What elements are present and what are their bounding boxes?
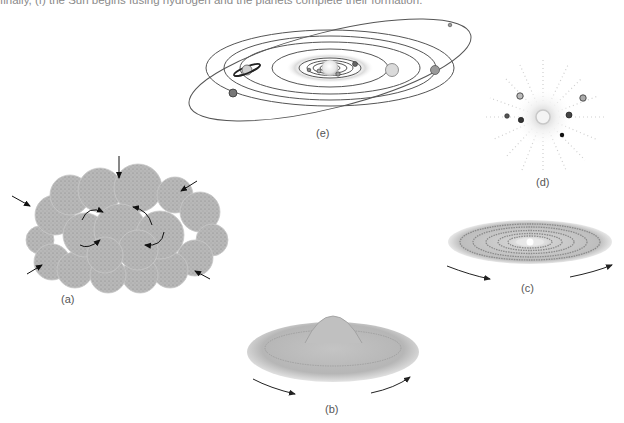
panel-a-label: (a)	[61, 293, 74, 305]
panel-d-label: (d)	[536, 176, 549, 188]
flattened-disk-illustration	[230, 300, 450, 395]
panel-b-flattened-disk	[230, 300, 450, 395]
panel-a-collapsing-cloud	[0, 150, 250, 280]
young-sun-illustration	[480, 50, 610, 175]
collapsing-cloud-illustration	[0, 150, 250, 280]
panel-e-label: (e)	[316, 127, 329, 139]
panel-c-ringed-disk	[440, 200, 624, 280]
solar-system-illustration	[180, 0, 470, 125]
panel-d-young-sun	[480, 50, 610, 175]
panel-e-solar-system	[180, 0, 470, 125]
panel-c-label: (c)	[521, 282, 534, 294]
panel-b-label: (b)	[325, 403, 338, 415]
ringed-disk-illustration	[440, 200, 624, 280]
